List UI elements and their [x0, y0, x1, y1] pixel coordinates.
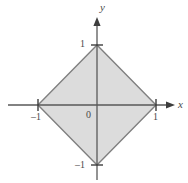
y-axis-arrow-icon — [93, 17, 100, 26]
coordinate-plane-figure: y x 0 1 –1 –1 1 — [0, 0, 188, 183]
x-axis-label: x — [178, 99, 183, 110]
y-axis-label: y — [100, 2, 105, 13]
tick-label-y-top: 1 — [80, 39, 85, 49]
origin-label: 0 — [86, 110, 91, 120]
tick-label-x-left: –1 — [31, 112, 41, 122]
x-axis-arrow-icon — [166, 101, 175, 108]
tick-label-y-bottom: –1 — [75, 160, 85, 170]
plot-canvas — [0, 0, 188, 183]
tick-label-x-right: 1 — [153, 112, 158, 122]
